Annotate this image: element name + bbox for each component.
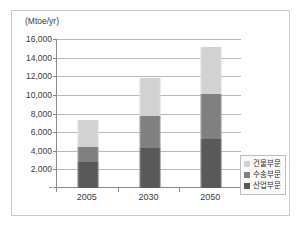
y-axis-tick-label: 12,000	[26, 72, 52, 81]
y-axis-tick	[53, 132, 57, 133]
bar-2005	[77, 120, 98, 188]
y-axis-tick	[53, 151, 57, 152]
x-axis-tick-label: 2005	[77, 192, 97, 202]
y-axis-tick-label: 4,000	[31, 147, 52, 156]
y-axis-tick	[53, 76, 57, 77]
bar-segment	[139, 78, 160, 116]
bar-segment	[201, 139, 222, 188]
bar-segment	[139, 148, 160, 188]
bar-segment	[77, 120, 98, 147]
y-axis-tick-label: 2,000	[31, 165, 52, 174]
y-axis-tick	[53, 58, 57, 59]
legend-swatch-icon	[244, 183, 250, 189]
x-axis-tick-label: 2030	[138, 192, 158, 202]
gridline	[57, 39, 241, 40]
y-axis-tick	[53, 95, 57, 96]
y-axis-tick-label: 16,000	[26, 35, 52, 44]
y-axis-tick-label: 10,000	[26, 91, 52, 100]
x-axis-tick-labels: 200520302050	[56, 192, 241, 208]
plot-area	[56, 39, 241, 188]
chart-figure: (Mtoe/yr) -2,0004,0006,0008,00010,00012,…	[0, 0, 304, 229]
y-axis-tick-label: -	[49, 183, 52, 192]
legend-item: 산업부문	[244, 181, 281, 191]
bar-segment	[77, 147, 98, 162]
y-axis-tick-label: 6,000	[31, 128, 52, 137]
bar-segment	[201, 47, 222, 94]
bar-segment	[139, 116, 160, 148]
y-axis-tick-label: 8,000	[31, 109, 52, 118]
legend-label: 산업부문	[253, 182, 281, 190]
y-axis-tick	[53, 169, 57, 170]
legend-item: 건물부문	[244, 159, 281, 169]
x-axis-tick-label: 2050	[200, 192, 220, 202]
legend-swatch-icon	[244, 172, 250, 178]
bar-2030	[139, 78, 160, 188]
bar-segment	[77, 162, 98, 188]
bar-segment	[201, 94, 222, 139]
chart-legend: 건물부문수송부문산업부문	[240, 155, 286, 195]
y-axis-unit-label: (Mtoe/yr)	[25, 16, 59, 26]
legend-swatch-icon	[244, 161, 250, 167]
legend-label: 건물부문	[253, 160, 281, 168]
y-axis-tick-label: 14,000	[26, 53, 52, 62]
y-axis-tick-labels: -2,0004,0006,0008,00010,00012,00014,0001…	[16, 39, 52, 188]
y-axis-tick	[53, 39, 57, 40]
legend-item: 수송부문	[244, 170, 281, 180]
legend-label: 수송부문	[253, 171, 281, 179]
bar-2050	[201, 47, 222, 188]
y-axis-tick	[53, 114, 57, 115]
